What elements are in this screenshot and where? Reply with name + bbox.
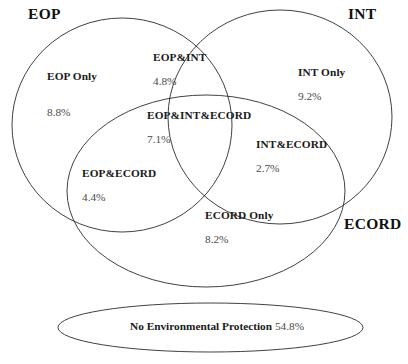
no-protection-value: 54.8% [275, 320, 304, 332]
region-value-eop-int: 4.8% [153, 76, 177, 88]
region-label-ecord-only: ECORD Only [205, 210, 273, 222]
region-value-int-ecord: 2.7% [256, 163, 280, 175]
no-protection-name: No Environmental Protection [130, 320, 272, 332]
venn-diagram: EOP INT ECORD EOP Only 8.8% EOP&INT 4.8%… [0, 0, 408, 364]
region-value-eop-ecord: 4.4% [82, 192, 106, 204]
region-value-int-only: 9.2% [298, 91, 322, 103]
set-title-eop: EOP [28, 6, 61, 22]
region-label-int-ecord: INT&ECORD [256, 139, 327, 151]
region-value-ecord-only: 8.2% [205, 234, 229, 246]
set-title-ecord: ECORD [344, 216, 401, 232]
region-value-eop-only: 8.8% [47, 107, 71, 119]
ecord-circle [67, 95, 345, 287]
region-label-int-only: INT Only [298, 67, 345, 79]
region-label-eop-ecord: EOP&ECORD [82, 168, 156, 180]
region-value-eop-int-ecord: 7.1% [147, 134, 171, 146]
set-title-int: INT [348, 6, 376, 22]
no-protection-label: No Environmental Protection 54.8% [130, 321, 304, 333]
region-label-eop-int-ecord: EOP&INT&ECORD [147, 110, 251, 122]
region-label-eop-only: EOP Only [47, 71, 97, 83]
region-label-eop-int: EOP&INT [153, 52, 206, 64]
